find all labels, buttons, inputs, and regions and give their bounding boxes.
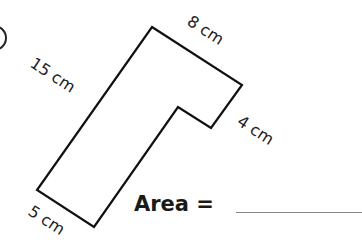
label-top: 8 cm (184, 11, 228, 49)
question-number-circle (0, 26, 6, 50)
label-right: 4 cm (234, 111, 278, 149)
label-left: 15 cm (27, 53, 79, 96)
answer-blank[interactable] (236, 212, 362, 213)
area-label: Area = (134, 192, 214, 216)
